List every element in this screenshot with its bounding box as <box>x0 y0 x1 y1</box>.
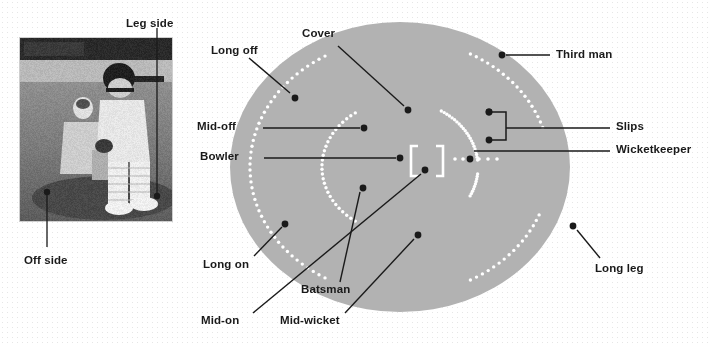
leg-side-marker <box>154 193 160 199</box>
field-dot <box>253 198 256 201</box>
field-dot <box>461 157 465 161</box>
field-dot <box>512 249 515 252</box>
position-marker <box>467 156 474 163</box>
field-dot <box>503 257 506 260</box>
field-dot <box>497 261 500 264</box>
field-dot <box>495 157 499 161</box>
diagram-root: Leg side Off side Long off Cover Third m… <box>0 0 712 345</box>
field-dot <box>269 100 272 103</box>
field-dot <box>528 229 531 232</box>
field-dot <box>331 132 334 135</box>
field-dot <box>323 276 326 279</box>
field-dot <box>520 90 523 93</box>
position-marker <box>499 52 506 59</box>
field-dot <box>277 241 280 244</box>
label-off-side: Off side <box>24 255 68 267</box>
field-dot <box>323 182 326 185</box>
field-dot <box>249 156 252 159</box>
field-dot <box>523 95 526 98</box>
position-marker <box>415 232 422 239</box>
leader-line <box>577 230 600 258</box>
field-dot <box>306 64 309 67</box>
field-dot <box>324 186 327 189</box>
field-dot <box>269 231 272 234</box>
field-dot <box>334 203 337 206</box>
label-wicketkeeper: Wicketkeeper <box>616 144 691 156</box>
field-dot <box>257 209 260 212</box>
field-dot <box>266 105 269 108</box>
label-long-on: Long on <box>203 259 249 271</box>
field-dot <box>468 194 471 197</box>
field-dot <box>515 85 518 88</box>
field-dot <box>248 168 251 171</box>
field-dot <box>486 61 489 64</box>
field-dot <box>349 114 352 117</box>
field-dot <box>497 69 500 72</box>
field-dot <box>341 210 344 213</box>
field-dot <box>323 149 326 152</box>
field-dot <box>475 55 478 58</box>
off-side-marker <box>44 189 50 195</box>
field-dot <box>323 54 326 57</box>
field-dot <box>469 52 472 55</box>
field-dot <box>537 213 540 216</box>
field-dot <box>502 73 505 76</box>
field-dot <box>286 250 289 253</box>
field-dot <box>521 239 524 242</box>
field-dot <box>337 207 340 210</box>
label-mid-wicket: Mid-wicket <box>280 315 340 327</box>
field-dot <box>252 139 255 142</box>
field-dot <box>263 111 266 114</box>
field-dot <box>322 177 325 180</box>
field-dot <box>469 278 472 281</box>
field-dot <box>331 199 334 202</box>
field-dot <box>317 58 320 61</box>
field-dot <box>535 219 538 222</box>
label-long-off: Long off <box>211 45 258 57</box>
field-dot <box>317 273 320 276</box>
field-dot <box>312 270 315 273</box>
field-dot <box>260 116 263 119</box>
label-batsman: Batsman <box>301 284 350 296</box>
field-dot <box>301 68 304 71</box>
field-dot <box>253 133 256 136</box>
field-dot <box>260 215 263 218</box>
position-marker <box>405 107 412 114</box>
position-marker <box>361 125 368 132</box>
field-dot <box>295 258 298 261</box>
field-dot <box>273 95 276 98</box>
field-dot <box>266 225 269 228</box>
position-marker <box>570 223 577 230</box>
field-dot <box>250 186 253 189</box>
field-dot <box>453 157 457 161</box>
field-dot <box>337 124 340 127</box>
field-dot <box>252 192 255 195</box>
field-dot <box>349 217 352 220</box>
position-marker <box>397 155 404 162</box>
field-dot <box>511 81 514 84</box>
field-dot <box>517 244 520 247</box>
field-dot <box>286 81 289 84</box>
field-dot <box>320 168 323 171</box>
field-dot <box>527 100 530 103</box>
position-marker <box>292 95 299 102</box>
field-dot <box>492 265 495 268</box>
field-dot <box>312 61 315 64</box>
field-dot <box>354 111 357 114</box>
field-dot <box>320 163 323 166</box>
field-dot <box>277 90 280 93</box>
field-dot <box>326 140 329 143</box>
field-dot <box>533 110 536 113</box>
field-dot <box>530 105 533 108</box>
field-dot <box>487 269 490 272</box>
field-dot <box>525 234 528 237</box>
field-dot <box>486 157 490 161</box>
field-dot <box>506 77 509 80</box>
label-cover: Cover <box>302 28 335 40</box>
field-dot <box>248 162 251 165</box>
field-dot <box>290 76 293 79</box>
position-marker <box>360 185 367 192</box>
field-dot <box>249 180 252 183</box>
field-dot <box>290 254 293 257</box>
field-dot <box>321 172 324 175</box>
